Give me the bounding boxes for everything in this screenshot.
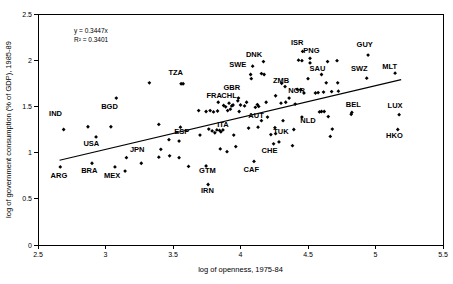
y-tick-label: 2.5 [22, 11, 32, 18]
country-label-png: PNG [303, 46, 319, 55]
data-point [249, 73, 253, 77]
data-point [123, 169, 127, 173]
country-label-dnk: DNK [246, 50, 263, 59]
data-point [266, 115, 270, 119]
country-label-bgd: BGD [101, 102, 118, 111]
data-point [281, 119, 285, 123]
data-point [274, 94, 278, 98]
data-point-bra [90, 161, 94, 165]
country-label-gbr: GBR [223, 83, 240, 92]
country-label-lux: LUX [388, 101, 403, 110]
data-point [256, 125, 260, 129]
data-point-caf [252, 159, 256, 163]
data-point [198, 133, 202, 137]
country-label-isr: ISR [291, 38, 304, 47]
data-point [177, 156, 181, 160]
country-label-ind: IND [49, 109, 63, 118]
data-point-swz [365, 76, 369, 80]
y-tick-label: 1.5 [22, 103, 32, 110]
data-point [109, 125, 113, 129]
data-point [292, 128, 296, 132]
data-point [300, 59, 304, 63]
data-point [167, 138, 171, 142]
data-point-fra [216, 100, 220, 104]
country-label-tuk: TUK [273, 127, 289, 136]
y-tick-label: 0 [28, 242, 32, 249]
data-point [218, 147, 222, 151]
country-label-nor: NOR [288, 86, 305, 95]
x-tick-label: 2.5 [33, 251, 43, 258]
data-point [287, 96, 291, 100]
x-tick-label: 3.5 [168, 251, 178, 258]
country-label-tza: TZA [168, 68, 183, 77]
data-point [245, 100, 249, 104]
data-point-arg [58, 165, 62, 169]
y-tick-label: 1 [28, 149, 32, 156]
data-point [328, 135, 332, 139]
regression-equation-label: y = 0.3447x [74, 27, 109, 35]
data-point-gbr [237, 96, 241, 100]
data-point [269, 133, 273, 137]
data-point [251, 64, 255, 68]
data-point [322, 110, 326, 114]
plot-frame [38, 14, 443, 245]
country-label-swz: SWZ [351, 64, 368, 73]
data-point-bgd [114, 96, 118, 100]
country-label-zmb: ZMB [273, 76, 290, 85]
data-point [336, 89, 340, 93]
data-point [306, 77, 310, 81]
country-label-sau: SAU [310, 64, 326, 73]
data-point [157, 155, 161, 159]
data-point [326, 115, 330, 119]
data-point-tuk [277, 140, 281, 144]
x-tick-label: 4.5 [303, 251, 313, 258]
data-point-dnk [262, 60, 266, 64]
country-label-hko: HKO [386, 131, 403, 140]
data-point [234, 145, 238, 149]
country-label-irn: IRN [201, 186, 214, 195]
data-point [86, 125, 90, 129]
data-point [216, 109, 220, 113]
data-point [247, 126, 251, 130]
data-point [279, 101, 283, 105]
data-point [291, 144, 295, 148]
plot-svg: 2.533.544.555.500.511.522.5log of openne… [0, 0, 453, 284]
y-tick-label: 0.5 [22, 195, 32, 202]
data-point [212, 110, 216, 114]
data-point [168, 154, 172, 158]
data-point-mlt [393, 71, 397, 75]
y-tick-label: 2 [28, 57, 32, 64]
r-squared-label: R² = 0.3401 [74, 36, 109, 43]
data-point [147, 81, 151, 85]
data-point [253, 105, 257, 109]
country-label-bra: BRA [81, 166, 98, 175]
y-axis-title: log of government consumption (% of GDP)… [4, 41, 13, 218]
data-point [157, 123, 161, 127]
x-tick-label: 3 [104, 251, 108, 258]
country-label-che: CHE [262, 146, 278, 155]
scatter-chart-figure: 2.533.544.555.500.511.522.5log of openne… [0, 0, 453, 284]
data-point-zmb [283, 85, 287, 89]
data-point [207, 127, 211, 131]
data-point [237, 110, 241, 114]
data-point [335, 59, 339, 63]
data-point [187, 165, 191, 169]
data-point-tza [181, 82, 185, 86]
data-point [324, 81, 328, 85]
data-point-lux [397, 113, 401, 117]
data-point [336, 81, 340, 85]
data-point-png [308, 56, 312, 60]
data-point-guy [366, 53, 370, 57]
data-point [297, 58, 301, 62]
country-label-swe: SWE [229, 60, 246, 69]
data-point [239, 103, 243, 107]
country-label-fra: FRA [206, 91, 222, 100]
data-point-swe [249, 77, 253, 81]
data-point [264, 100, 268, 104]
data-point [243, 104, 247, 108]
x-tick-label: 5 [374, 251, 378, 258]
country-label-guy: GUY [357, 40, 373, 49]
data-point [125, 156, 129, 160]
x-tick-label: 5.5 [438, 251, 448, 258]
data-point [326, 60, 330, 64]
